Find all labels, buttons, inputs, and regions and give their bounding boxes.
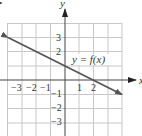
y-tick-neg3: −3: [51, 116, 62, 127]
function-graph: • y x −3 −2 −1 1 2 3 2 −1 −2 −3: [0, 0, 142, 136]
y-tick-neg2: −2: [51, 102, 62, 113]
x-tick-neg2: −2: [26, 82, 37, 93]
y-axis-label: y: [59, 0, 65, 9]
x-tick-2: 2: [91, 82, 96, 93]
item-bullet: •: [0, 0, 2, 8]
y-tick-neg1: −1: [51, 88, 62, 99]
y-tick-3: 3: [56, 32, 61, 43]
x-tick-neg3: −3: [11, 82, 22, 93]
y-tick-2: 2: [56, 46, 61, 57]
x-tick-neg1: −1: [40, 82, 51, 93]
function-label: y = f(x): [71, 53, 105, 66]
x-tick-1: 1: [77, 82, 82, 93]
x-axis-label: x: [138, 74, 142, 86]
